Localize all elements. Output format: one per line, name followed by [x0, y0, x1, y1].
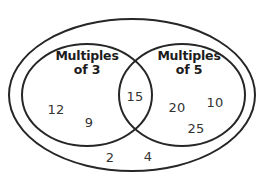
set-label-multiples-of-5: Multiples of 5 — [157, 49, 220, 77]
set-label-multiples-of-3-line2: of 3 — [55, 63, 118, 77]
element-multiples-of-3-only: 12 — [47, 103, 64, 118]
element-universal-set-only: 2 — [106, 151, 115, 166]
element-multiples-of-5-only: 20 — [168, 101, 185, 116]
element-multiples-of-3-only: 9 — [85, 116, 94, 131]
element-multiples-of-5-only: 25 — [187, 122, 204, 137]
element-universal-set-only: 4 — [144, 150, 153, 165]
set-label-multiples-of-5-line2: of 5 — [157, 63, 220, 77]
set-label-multiples-of-3: Multiples of 3 — [55, 49, 118, 77]
set-label-multiples-of-3-line1: Multiples — [55, 49, 118, 63]
venn-diagram-canvas: Multiples of 3 Multiples of 5 12 9 15 20… — [0, 0, 265, 180]
set-label-multiples-of-5-line1: Multiples — [157, 49, 220, 63]
element-multiples-of-5-only: 10 — [206, 96, 223, 111]
element-intersection: 15 — [126, 90, 143, 105]
